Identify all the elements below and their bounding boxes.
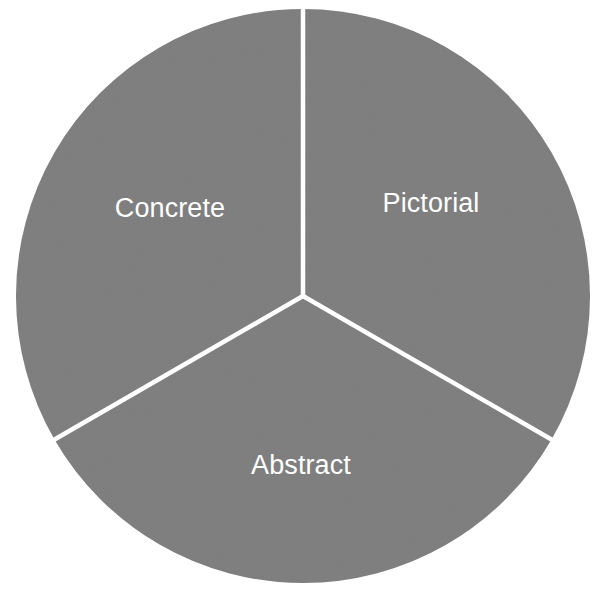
slice-label-abstract: Abstract (251, 450, 351, 480)
slice-label-concrete: Concrete (115, 193, 225, 223)
pie-chart-container: Pictorial Abstract Concrete (0, 0, 609, 597)
pie-chart: Pictorial Abstract Concrete (0, 0, 609, 597)
slice-label-pictorial: Pictorial (383, 188, 480, 218)
